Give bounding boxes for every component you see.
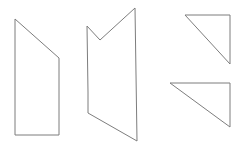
shape-canvas [0,0,244,149]
canvas-background [0,0,244,149]
